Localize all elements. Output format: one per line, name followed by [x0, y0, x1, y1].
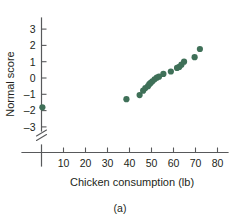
y-axis-title: Normal score [4, 51, 16, 116]
y-tick-label: –1 [24, 88, 36, 100]
x-tick-label: 40 [124, 157, 136, 169]
y-tick-label: 3 [30, 23, 36, 35]
x-tick-label: 50 [146, 157, 158, 169]
data-points-group [39, 46, 203, 111]
data-point [39, 104, 45, 110]
y-tick-label: 0 [30, 72, 36, 84]
data-point [197, 46, 203, 52]
data-point [192, 54, 198, 60]
x-axis-ticks: 1020304050607080 [58, 148, 224, 169]
data-point [160, 71, 166, 77]
x-tick-label: 80 [212, 157, 224, 169]
data-point [123, 96, 129, 102]
data-point [181, 59, 187, 65]
x-tick-label: 70 [190, 157, 202, 169]
data-point [168, 68, 174, 74]
y-tick-label: –2 [24, 104, 36, 116]
scatter-chart: 3210–1–2–31020304050607080Chicken consum… [0, 0, 240, 222]
x-tick-label: 30 [102, 157, 114, 169]
x-axis-title: Chicken consumption (lb) [70, 176, 194, 188]
y-tick-label: 2 [30, 39, 36, 51]
y-tick-label: –3 [24, 121, 36, 133]
x-tick-label: 10 [58, 157, 70, 169]
x-tick-label: 20 [80, 157, 92, 169]
y-tick-label: 1 [30, 56, 36, 68]
x-tick-label: 60 [168, 157, 180, 169]
figure-caption: (a) [114, 202, 127, 214]
normal-probability-plot-figure: 3210–1–2–31020304050607080Chicken consum… [0, 0, 240, 222]
y-axis-ticks: 3210–1–2–3 [24, 23, 47, 133]
